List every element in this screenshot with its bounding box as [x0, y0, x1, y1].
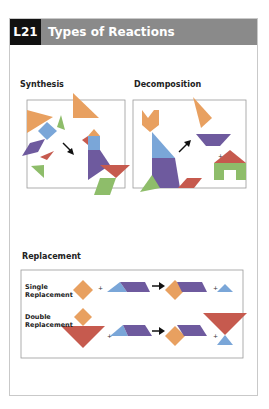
double-replacement-label: Double Replacement [25, 313, 73, 329]
single-replacement-line1: Single [25, 283, 73, 291]
decomposition-diagram: + [133, 97, 246, 192]
double-replacement-line2: Replacement [25, 321, 73, 329]
svg-text:+: + [98, 284, 103, 291]
svg-text:+: + [213, 332, 218, 339]
single-replacement-label: Single Replacement [25, 283, 73, 299]
reaction-diagrams: + + + + + [0, 0, 269, 409]
single-replacement-line2: Replacement [25, 291, 73, 299]
double-replacement-line1: Double [25, 313, 73, 321]
svg-text:+: + [213, 284, 218, 291]
synthesis-diagram [22, 93, 130, 195]
